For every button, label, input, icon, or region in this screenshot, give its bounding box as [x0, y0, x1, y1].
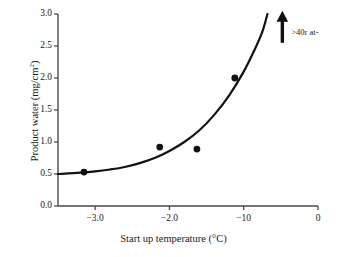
trend-curve — [58, 14, 267, 174]
data-point-marker — [156, 144, 163, 151]
axis-spines — [58, 14, 318, 206]
x-axis-tick-label: −10 — [219, 214, 269, 224]
y-axis-title-superscript: 2 — [28, 64, 36, 68]
up-arrow-icon — [277, 11, 289, 43]
x-axis-tick-label: −3.0 — [70, 214, 120, 224]
data-point-marker — [81, 169, 88, 176]
chart-figure: 0.00.51.01.52.02.53.0 −3.0−2.0−100 Start… — [0, 0, 347, 257]
data-point-markers — [81, 75, 239, 176]
y-axis-title-close: ) — [29, 61, 40, 65]
x-axis-title: Start up temperature (°C) — [0, 234, 347, 245]
y-axis-title: Product water (mg/cm2) — [30, 61, 41, 162]
annotation-label: >40r at- — [291, 28, 318, 37]
x-axis-tick-label: 0 — [293, 214, 343, 224]
data-point-marker — [231, 75, 238, 82]
data-point-marker — [194, 146, 201, 153]
y-axis-title-main: Product water (mg/cm — [29, 68, 40, 162]
y-axis-title-wrap: Product water (mg/cm2) — [24, 16, 40, 206]
x-axis-tick-label: −2.0 — [144, 214, 194, 224]
